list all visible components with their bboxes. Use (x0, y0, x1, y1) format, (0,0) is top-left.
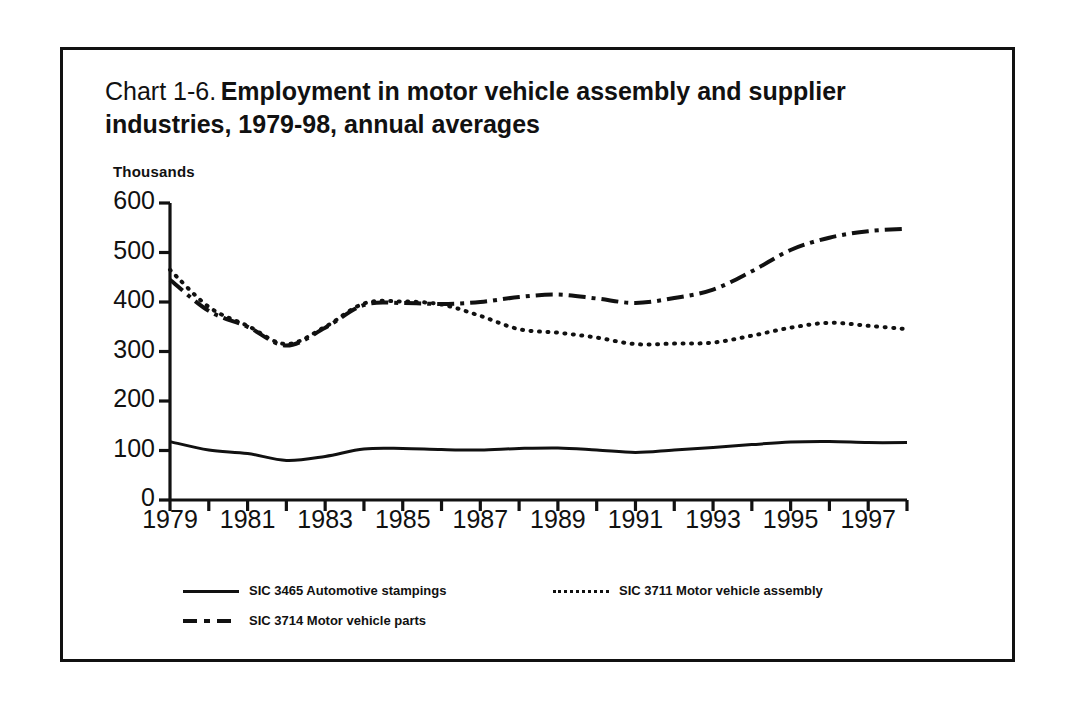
x-tick-label: 1983 (285, 505, 365, 534)
plot-area: 0100200300400500600197919811983198519871… (0, 0, 1080, 721)
x-tick-label: 1979 (130, 505, 210, 534)
x-tick-label: 1981 (208, 505, 288, 534)
y-tick-label: 400 (93, 285, 155, 314)
legend-line-sample-icon (183, 616, 239, 626)
legend-line-glyph (553, 590, 609, 593)
x-tick-label: 1997 (828, 505, 908, 534)
series-line-dashdot (170, 229, 907, 346)
x-tick-label: 1987 (440, 505, 520, 534)
y-tick-label: 300 (93, 335, 155, 364)
y-tick-label: 600 (93, 186, 155, 215)
legend-line-sample-icon (553, 586, 609, 596)
legend-line-glyph (183, 619, 239, 623)
series-line-solid (170, 442, 907, 461)
legend-item-dotted[interactable]: SIC 3711 Motor vehicle assembly (553, 582, 823, 598)
legend-line-sample-icon (183, 586, 239, 596)
legend-line-glyph (183, 590, 239, 593)
legend-label: SIC 3465 Automotive stampings (249, 583, 446, 598)
x-tick-label: 1995 (751, 505, 831, 534)
legend-item-dashdot[interactable]: SIC 3714 Motor vehicle parts (183, 612, 426, 628)
x-tick-label: 1985 (363, 505, 443, 534)
legend-label: SIC 3714 Motor vehicle parts (249, 613, 426, 628)
x-tick-label: 1989 (518, 505, 598, 534)
chart-svg (0, 0, 1080, 721)
y-tick-label: 200 (93, 384, 155, 413)
y-tick-label: 500 (93, 236, 155, 265)
series-line-dotted (170, 270, 907, 345)
chart-page: Chart 1-6. Employment in motor vehicle a… (0, 0, 1080, 721)
legend-item-solid[interactable]: SIC 3465 Automotive stampings (183, 582, 446, 598)
y-tick-label: 100 (93, 434, 155, 463)
x-tick-label: 1991 (595, 505, 675, 534)
x-tick-label: 1993 (673, 505, 753, 534)
legend-label: SIC 3711 Motor vehicle assembly (619, 583, 823, 598)
